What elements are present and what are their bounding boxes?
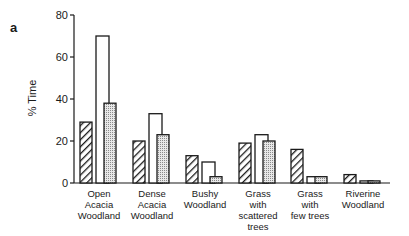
- bars: [80, 36, 380, 183]
- bar-hatched: [80, 122, 92, 183]
- category-label-line: Acacia: [122, 199, 182, 210]
- category-label-line: Dense: [122, 188, 182, 199]
- category-label-line: Woodland: [122, 210, 182, 221]
- category-label-line: with: [280, 199, 340, 210]
- x-category-label: Grasswithscatteredtrees: [228, 188, 288, 232]
- category-label-line: Woodland: [175, 199, 235, 210]
- category-label-line: Grass: [228, 188, 288, 199]
- category-label-line: Woodland: [69, 210, 129, 221]
- bar-stippled: [368, 181, 380, 183]
- bar-stippled: [157, 135, 169, 183]
- category-label-line: trees: [228, 221, 288, 232]
- y-tick-label: 40: [56, 93, 68, 105]
- category-label-line: Open: [69, 188, 129, 199]
- category-label-line: with: [228, 199, 288, 210]
- category-label-line: scattered: [228, 210, 288, 221]
- y-tick-label: 0: [62, 177, 68, 189]
- category-label-line: Riverine: [333, 188, 393, 199]
- bar-hatched: [291, 149, 303, 183]
- category-label-line: Woodland: [333, 199, 393, 210]
- x-category-label: RiverineWoodland: [333, 188, 393, 210]
- category-label-line: Acacia: [69, 199, 129, 210]
- x-category-label: OpenAcaciaWoodland: [69, 188, 129, 221]
- category-label-line: Grass: [280, 188, 340, 199]
- x-category-label: BushyWoodland: [175, 188, 235, 210]
- bar-hatched: [133, 141, 145, 183]
- y-tick-label: 60: [56, 51, 68, 63]
- bar-stippled: [104, 103, 116, 183]
- bar-stippled: [210, 177, 222, 183]
- y-tick-label: 80: [56, 9, 68, 21]
- category-label-line: Bushy: [175, 188, 235, 199]
- bar-stippled: [315, 177, 327, 183]
- bar-hatched: [239, 143, 251, 183]
- bar-stippled: [263, 141, 275, 183]
- x-category-label: DenseAcaciaWoodland: [122, 188, 182, 221]
- bar-hatched: [186, 156, 198, 183]
- y-tick-label: 20: [56, 135, 68, 147]
- bar-hatched: [344, 175, 356, 183]
- category-label-line: few trees: [280, 210, 340, 221]
- x-category-label: Grasswithfew trees: [280, 188, 340, 221]
